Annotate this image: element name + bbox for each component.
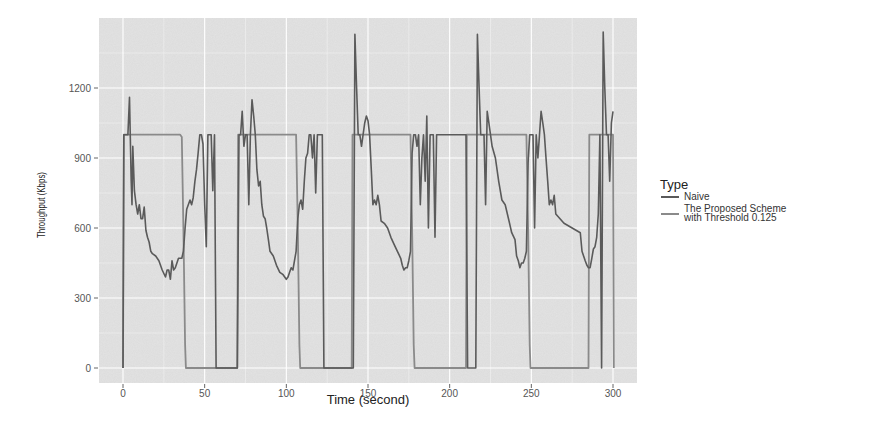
throughput-chart: 03006009001200 050100150200250300 Time (… bbox=[0, 0, 876, 421]
legend-items: NaiveThe Proposed Schemewith Threshold 0… bbox=[661, 191, 787, 223]
x-tick-label: 50 bbox=[199, 388, 211, 399]
y-tick-label: 0 bbox=[85, 363, 91, 374]
legend: Type NaiveThe Proposed Schemewith Thresh… bbox=[660, 177, 787, 223]
y-tick-label: 300 bbox=[74, 293, 91, 304]
x-tick-label: 0 bbox=[120, 388, 126, 399]
legend-title: Type bbox=[660, 177, 688, 192]
plot-panel bbox=[99, 18, 637, 383]
y-tick-label: 1200 bbox=[69, 83, 92, 94]
y-tick-label: 600 bbox=[74, 223, 91, 234]
x-tick-label: 250 bbox=[523, 388, 540, 399]
y-tick-label: 900 bbox=[74, 153, 91, 164]
y-axis-title: Throughput (Kbps) bbox=[35, 172, 48, 238]
y-axis: 03006009001200 bbox=[69, 83, 98, 374]
legend-label: with Threshold 0.125 bbox=[683, 212, 777, 223]
legend-label: Naive bbox=[684, 191, 710, 202]
x-tick-label: 300 bbox=[605, 388, 622, 399]
x-tick-label: 200 bbox=[441, 388, 458, 399]
x-axis-title: Time (second) bbox=[327, 392, 410, 407]
x-tick-label: 100 bbox=[278, 388, 295, 399]
